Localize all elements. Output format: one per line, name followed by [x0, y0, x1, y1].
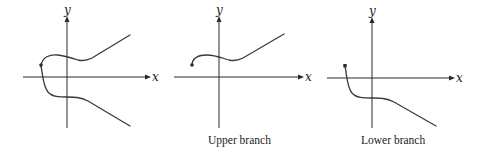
upper-branch-curve [41, 35, 130, 66]
caption-upper-branch: Upper branch [208, 134, 271, 147]
x-axis-arrow-icon [298, 75, 304, 80]
panel-full-curve: x y [23, 3, 159, 128]
y-axis-label: y [368, 4, 376, 18]
endpoint-dot [190, 63, 194, 67]
y-axis-label: y [63, 3, 71, 17]
upper-branch-curve [192, 34, 284, 64]
endpoint-dot [343, 64, 346, 67]
y-axis-label: y [215, 3, 223, 17]
x-axis-label: x [152, 70, 159, 84]
curve-branches-figure: x y x y Upper branch x y Lower branch [0, 0, 485, 153]
lower-branch-curve [345, 66, 436, 126]
lower-branch-curve [41, 66, 130, 126]
x-axis-arrow-icon [145, 75, 151, 80]
x-axis-label: x [305, 70, 312, 84]
x-axis-arrow-icon [449, 76, 455, 81]
panel-upper-branch: x y Upper branch [174, 3, 312, 147]
panel-lower-branch: x y Lower branch [327, 4, 463, 146]
x-axis-label: x [456, 71, 463, 85]
endpoint-dot [39, 63, 43, 67]
caption-lower-branch: Lower branch [361, 134, 425, 146]
